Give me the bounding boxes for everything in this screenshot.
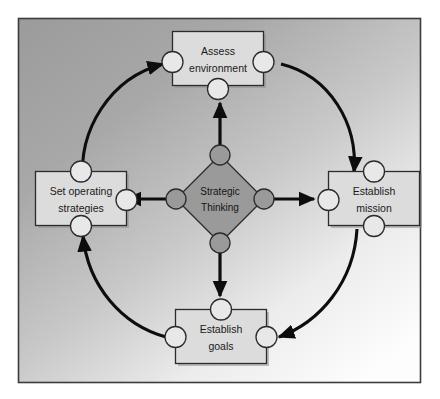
connector-mission-top[interactable] bbox=[364, 161, 385, 182]
assess-environment-box bbox=[173, 32, 264, 86]
connector-goals-top[interactable] bbox=[211, 299, 232, 320]
strategic-thinking-label-line1: Strategic bbox=[200, 186, 239, 197]
strategic-thinking-cycle-diagram: Strategic Thinking Assess environment Es… bbox=[0, 0, 440, 399]
establish-mission-label-line1: Establish bbox=[353, 185, 396, 197]
assess-environment-label-line2: environment bbox=[189, 62, 247, 74]
connector-assess-bottom[interactable] bbox=[208, 79, 229, 100]
connector-assess-left[interactable] bbox=[162, 52, 183, 73]
connector-center-top[interactable] bbox=[210, 145, 230, 165]
strategic-thinking-label-line2: Thinking bbox=[201, 202, 239, 213]
assess-environment-label-line1: Assess bbox=[201, 45, 235, 57]
set-operating-strategies-label-line1: Set operating bbox=[50, 185, 113, 197]
connector-strategies-right[interactable] bbox=[116, 190, 137, 211]
connector-center-left[interactable] bbox=[166, 189, 186, 209]
connector-strategies-bottom[interactable] bbox=[71, 216, 92, 237]
connector-center-bottom[interactable] bbox=[210, 233, 230, 253]
establish-goals-label-line2: goals bbox=[208, 340, 233, 352]
connector-assess-right[interactable] bbox=[253, 52, 274, 73]
connector-strategies-top[interactable] bbox=[71, 161, 92, 182]
connector-mission-left[interactable] bbox=[318, 190, 339, 211]
connector-goals-right[interactable] bbox=[256, 327, 277, 348]
connector-mission-bottom[interactable] bbox=[364, 216, 385, 237]
establish-mission-label-line2: mission bbox=[356, 202, 392, 214]
set-operating-strategies-label-line2: strategies bbox=[58, 202, 104, 214]
connector-center-right[interactable] bbox=[254, 189, 274, 209]
connector-goals-left[interactable] bbox=[165, 327, 186, 348]
establish-goals-label-line1: Establish bbox=[200, 323, 243, 335]
diagram-root: Strategic Thinking Assess environment Es… bbox=[0, 0, 440, 399]
